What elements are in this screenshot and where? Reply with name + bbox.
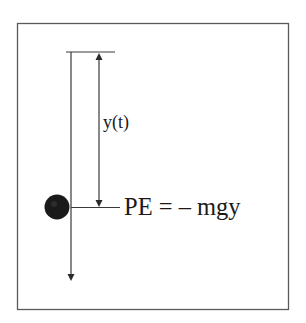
arrow-up-icon <box>96 53 103 60</box>
ball-highlight <box>51 201 57 207</box>
potential-energy-equation: PE = – mgy <box>124 193 241 220</box>
potential-energy-diagram: y(t) PE = – mgy <box>0 0 306 323</box>
displacement-label: y(t) <box>103 112 129 133</box>
ball-mass <box>45 195 70 220</box>
down-arrow-icon <box>68 274 75 281</box>
frame-border <box>18 24 289 310</box>
arrow-down-icon <box>96 200 103 207</box>
